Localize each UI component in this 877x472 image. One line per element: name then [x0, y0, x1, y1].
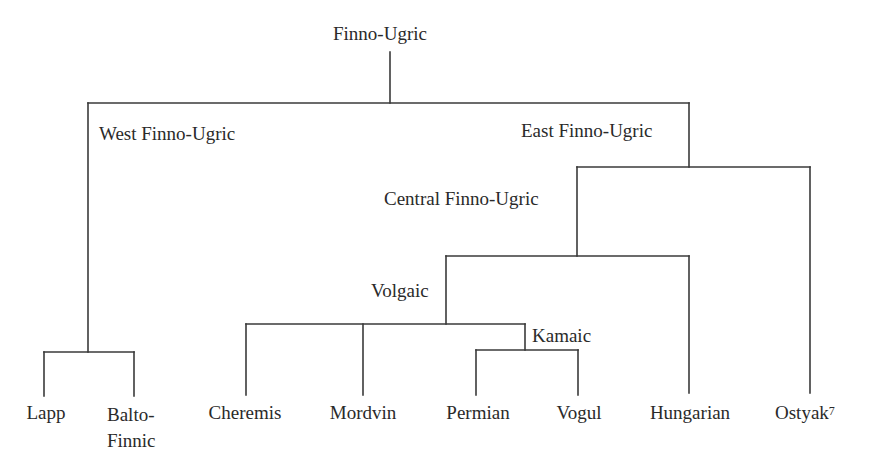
- east-branch-label: East Finno-Ugric: [521, 120, 652, 142]
- leaf-cheremis: Cheremis: [209, 402, 282, 424]
- leaf-hungarian: Hungarian: [650, 402, 730, 424]
- leaf-ostyak: Ostyak7: [775, 402, 835, 424]
- leaf-mordvin: Mordvin: [330, 402, 397, 424]
- leaf-balto-finnic: Balto- Finnic: [107, 402, 156, 454]
- leaf-vogul: Vogul: [556, 402, 601, 424]
- central-branch-label: Central Finno-Ugric: [384, 188, 539, 210]
- leaf-permian: Permian: [446, 402, 509, 424]
- west-branch-label: West Finno-Ugric: [99, 123, 235, 145]
- leaf-balto-line2: Finnic: [107, 430, 156, 451]
- leaf-lapp: Lapp: [26, 402, 65, 424]
- kamaic-branch-label: Kamaic: [532, 325, 591, 347]
- volgaic-branch-label: Volgaic: [371, 280, 429, 302]
- leaf-ostyak-text: Ostyak: [775, 402, 829, 423]
- footnote-marker: 7: [829, 404, 835, 418]
- root-label: Finno-Ugric: [333, 23, 427, 45]
- leaf-balto-line1: Balto-: [107, 404, 155, 425]
